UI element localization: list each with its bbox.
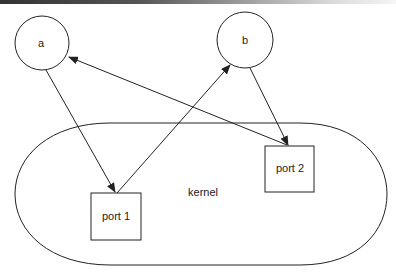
port2-label: port 2 bbox=[276, 162, 304, 174]
node-port2: port 2 bbox=[265, 146, 314, 192]
diagram-canvas: a b port 1 port 2 kernel bbox=[0, 0, 396, 276]
node-b: b bbox=[217, 12, 273, 68]
node-b-label: b bbox=[242, 34, 248, 46]
node-a-label: a bbox=[38, 37, 45, 49]
port1-label: port 1 bbox=[102, 210, 130, 222]
kernel-label: kernel bbox=[188, 186, 218, 198]
node-a: a bbox=[15, 16, 69, 70]
edge-b-to-port2 bbox=[250, 68, 288, 145]
edge-port2-to-a bbox=[69, 57, 287, 145]
edge-a-to-port1 bbox=[46, 70, 115, 192]
edge-port1-to-b bbox=[117, 65, 230, 193]
node-port1: port 1 bbox=[91, 193, 141, 240]
